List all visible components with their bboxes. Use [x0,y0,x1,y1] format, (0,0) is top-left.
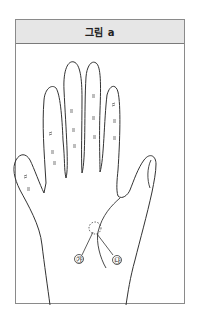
marker-ga: ㉮ [75,255,84,264]
finger-crease-marks [24,95,116,190]
hand-diagram: ㉮ ㉯ [0,0,197,315]
marker-na: ㉯ [113,256,122,265]
svg-text:㉯: ㉯ [114,257,121,265]
thumb-crease [148,160,151,188]
leader-line-ga [82,232,93,255]
svg-text:㉮: ㉮ [76,256,83,264]
hand-outline [14,62,156,305]
